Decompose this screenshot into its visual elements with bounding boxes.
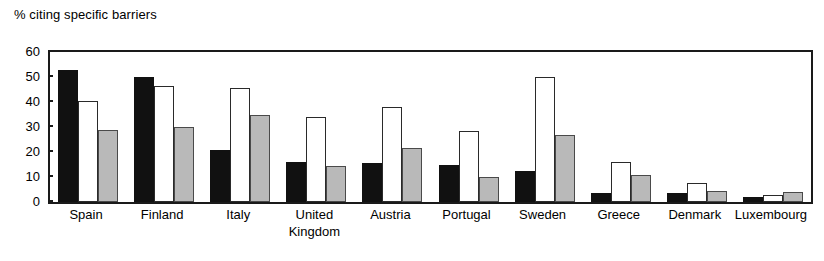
bar [98, 130, 118, 203]
bar-group [515, 52, 575, 202]
bar-group [58, 52, 118, 202]
bar [174, 127, 194, 202]
x-axis-label: Greece [581, 206, 657, 240]
bar-group [591, 52, 651, 202]
bar-group [362, 52, 422, 202]
bar [306, 117, 326, 202]
x-axis-label: Spain [48, 206, 124, 240]
bar [535, 77, 555, 202]
bar [591, 193, 611, 202]
bar [210, 150, 230, 203]
bar [439, 165, 459, 203]
bar [326, 166, 346, 202]
bar [58, 70, 78, 203]
x-axis-label: Portugal [429, 206, 505, 240]
y-axis-tick-label: 40 [26, 94, 40, 109]
bar [611, 162, 631, 202]
bar [230, 88, 250, 202]
bar [286, 162, 306, 202]
bar [763, 195, 783, 203]
y-axis-tick-label: 20 [26, 144, 40, 159]
bar-group [667, 52, 727, 202]
bar [515, 171, 535, 202]
y-axis-tick-label: 60 [26, 44, 40, 59]
y-axis-tick-label: 50 [26, 69, 40, 84]
bar [402, 148, 422, 202]
bar [250, 115, 270, 203]
bar [743, 197, 763, 202]
y-axis-tick-label: 0 [33, 194, 40, 209]
x-axis-label: Sweden [505, 206, 581, 240]
bar-chart: % citing specific barriers 0102030405060… [0, 0, 824, 261]
bar-group [134, 52, 194, 202]
bar [78, 101, 98, 202]
bar [154, 86, 174, 202]
x-axis-label: Finland [124, 206, 200, 240]
bar [555, 135, 575, 203]
y-axis-tick-label: 10 [26, 169, 40, 184]
y-axis-tick-label: 30 [26, 119, 40, 134]
x-axis-label: Denmark [657, 206, 733, 240]
bar [362, 163, 382, 202]
bar [707, 191, 727, 202]
bar [783, 192, 803, 202]
x-axis-label: Luxembourg [733, 206, 809, 240]
bar-group [439, 52, 499, 202]
y-axis: 0102030405060 [0, 50, 48, 202]
x-axis-label: Austria [352, 206, 428, 240]
bar [479, 177, 499, 202]
x-axis-label: United Kingdom [276, 206, 352, 240]
bar [459, 131, 479, 202]
plot-area [48, 50, 813, 204]
bar [382, 107, 402, 202]
bar [667, 193, 687, 202]
bar-group [286, 52, 346, 202]
x-axis-label: Italy [200, 206, 276, 240]
bar [687, 183, 707, 202]
chart-title: % citing specific barriers [14, 7, 157, 22]
bar-group [210, 52, 270, 202]
x-axis-labels: SpainFinlandItalyUnited KingdomAustriaPo… [48, 206, 809, 240]
bar [134, 77, 154, 202]
bars-layer [50, 52, 811, 202]
bar-group [743, 52, 803, 202]
bar [631, 175, 651, 203]
